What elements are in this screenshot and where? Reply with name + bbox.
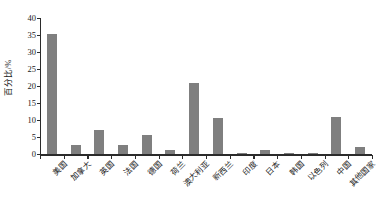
y-axis-tick-label: 25	[28, 64, 37, 74]
y-axis-tick-mark	[37, 35, 41, 36]
y-axis-tick-label: 15	[28, 98, 37, 108]
y-axis-tick-label: 20	[28, 81, 37, 91]
bar	[189, 83, 199, 154]
bar	[94, 130, 104, 154]
y-axis-tick-mark	[37, 137, 41, 138]
bar	[284, 153, 294, 154]
y-axis-tick-label: 30	[28, 47, 37, 57]
y-axis-tick-label: 0	[32, 149, 36, 159]
bar	[71, 145, 81, 154]
x-axis-tick-labels: 美国加拿大英国法国德国荷兰澳大利亚新西兰印度日本韩国以色列中国其他国家	[40, 155, 388, 203]
y-axis-tick-mark	[37, 103, 41, 104]
bar	[118, 145, 128, 154]
y-axis-tick-label: 5	[32, 132, 36, 142]
bar	[47, 34, 57, 154]
y-axis-tick-label: 10	[28, 115, 37, 125]
y-axis-tick-label: 35	[28, 30, 37, 40]
y-axis-tick-label: 40	[28, 13, 37, 23]
bar	[237, 153, 247, 154]
y-axis-tick-mark	[37, 52, 41, 53]
y-axis-title-text: 百分比/%	[1, 59, 13, 95]
bar	[260, 150, 270, 154]
plot-area	[40, 18, 372, 155]
y-axis-line	[40, 18, 41, 155]
y-axis-title: 百分比/%	[0, 0, 14, 155]
bar	[142, 135, 152, 154]
y-axis-tick-mark	[37, 120, 41, 121]
bar	[165, 150, 175, 154]
y-axis-tick-mark	[37, 86, 41, 87]
y-axis-tick-mark	[37, 69, 41, 70]
bar	[213, 118, 223, 154]
y-axis-tick-labels: 0510152025303540	[14, 0, 38, 203]
bar	[308, 153, 318, 154]
y-axis-tick-mark	[37, 18, 41, 19]
bar	[355, 147, 365, 154]
bar	[331, 117, 341, 154]
chart-figure: 百分比/% 0510152025303540 美国加拿大英国法国德国荷兰澳大利亚…	[0, 0, 388, 203]
